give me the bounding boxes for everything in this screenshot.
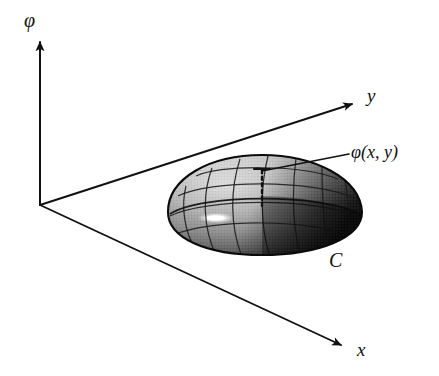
x-axis-label: x [357, 340, 365, 359]
dome-specular-core [205, 215, 225, 220]
surface-label-c: C [329, 250, 342, 270]
figure-container: φ y x C φ(x, y) [0, 0, 439, 376]
dome-surface [166, 150, 370, 262]
phi-axis-label: φ [24, 10, 35, 30]
phi-function-label: φ(x, y) [351, 143, 398, 161]
figure-canvas [0, 0, 439, 376]
y-axis-label: y [367, 86, 375, 105]
